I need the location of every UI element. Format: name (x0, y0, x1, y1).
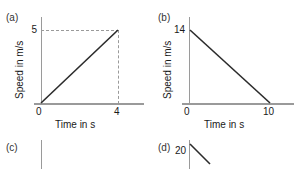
panel-d: (d) 20 (148, 120, 297, 169)
panel-b-x-tick-0: 0 (184, 107, 190, 117)
panel-a-y-axis-label: Speed in m/s (14, 41, 25, 99)
panel-d-y-tick-20: 20 (170, 146, 186, 156)
panel-b-x-tick-10: 10 (263, 107, 274, 117)
panel-a-x-tick-4: 4 (114, 107, 120, 117)
speed-time-graph-figure: (a) 5 0 4 Time in s Speed in m/s (b) 14 … (0, 0, 297, 169)
panel-a-x-tick-0: 0 (36, 107, 42, 117)
panel-b-y-tick-14: 14 (167, 25, 185, 35)
panel-d-data-line (148, 120, 297, 169)
panel-b: (b) 14 0 10 Time in s Speed in m/s (148, 0, 297, 120)
panel-c: (c) (0, 120, 148, 169)
panel-a: (a) 5 0 4 Time in s Speed in m/s (0, 0, 148, 120)
panel-a-y-tick-5: 5 (26, 25, 37, 35)
panel-b-y-axis-label: Speed in m/s (162, 41, 173, 99)
panel-c-y-axis (41, 140, 42, 169)
panel-c-tag: (c) (6, 143, 18, 153)
